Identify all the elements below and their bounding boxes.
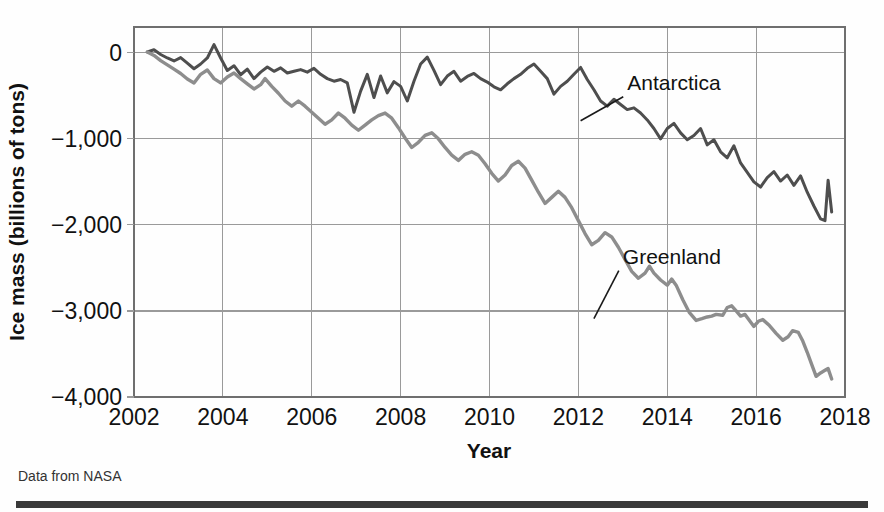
y-tick-label: −1,000 — [51, 126, 122, 152]
x-tick-label: 2018 — [819, 404, 870, 430]
y-tick-label: −3,000 — [51, 298, 122, 324]
x-tick-label: 2006 — [286, 404, 337, 430]
x-tick-label: 2004 — [197, 404, 248, 430]
x-tick-label: 2012 — [553, 404, 604, 430]
x-tick-label: 2008 — [375, 404, 426, 430]
x-tick-label: 2010 — [464, 404, 515, 430]
figure-background — [0, 0, 884, 512]
bottom-rule — [16, 501, 868, 508]
y-axis-title: Ice mass (billions of tons) — [5, 83, 28, 341]
x-axis-tick-labels: 200220042006200820102012201420162018 — [108, 404, 870, 430]
x-tick-label: 2016 — [731, 404, 782, 430]
x-tick-label: 2002 — [108, 404, 159, 430]
ice-mass-line-chart: 0−1,000−2,000−3,000−4,000 20022004200620… — [0, 0, 884, 512]
annotation-label-antarctica: Antarctica — [627, 71, 721, 94]
y-tick-label: −2,000 — [51, 212, 122, 238]
x-tick-label: 2014 — [642, 404, 693, 430]
x-axis-title: Year — [467, 439, 511, 462]
source-note: Data from NASA — [18, 468, 122, 484]
figure-container: 0−1,000−2,000−3,000−4,000 20022004200620… — [0, 0, 884, 512]
y-tick-label: 0 — [109, 40, 122, 66]
annotation-label-greenland: Greenland — [623, 245, 721, 268]
